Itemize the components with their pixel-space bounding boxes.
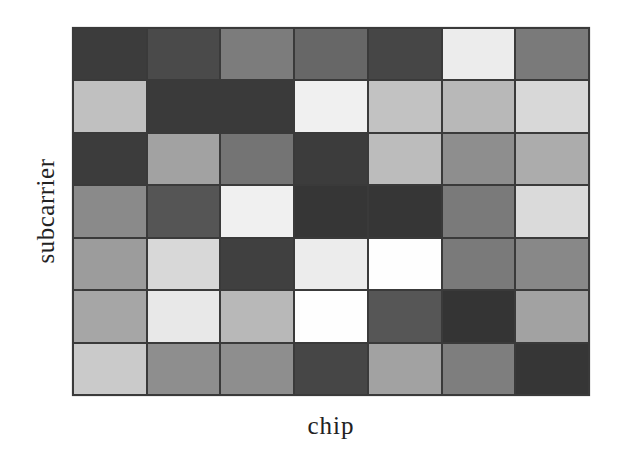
- heatmap-cell: [221, 134, 293, 184]
- heatmap-grid: [72, 27, 590, 396]
- heatmap-cell: [74, 344, 146, 394]
- heatmap-cell: [295, 134, 367, 184]
- heatmap-cell: [221, 186, 293, 236]
- heatmap-cell: [74, 81, 146, 131]
- heatmap-cell: [148, 344, 220, 394]
- heatmap-cell: [443, 291, 515, 341]
- heatmap-cell: [295, 344, 367, 394]
- heatmap-cell: [443, 29, 515, 79]
- heatmap-cell: [443, 134, 515, 184]
- heatmap-cell: [516, 81, 588, 131]
- heatmap-cell: [516, 29, 588, 79]
- heatmap-cell: [443, 81, 515, 131]
- heatmap-cell: [443, 344, 515, 394]
- heatmap-cell: [148, 134, 220, 184]
- heatmap-cell: [369, 344, 441, 394]
- heatmap-cell: [148, 81, 220, 131]
- heatmap-cell: [221, 29, 293, 79]
- heatmap-cell: [221, 81, 293, 131]
- heatmap-cell: [295, 186, 367, 236]
- heatmap-cell: [295, 291, 367, 341]
- heatmap-cell: [516, 186, 588, 236]
- heatmap-cell: [295, 29, 367, 79]
- heatmap-cell: [295, 81, 367, 131]
- heatmap-cell: [148, 291, 220, 341]
- heatmap-cell: [74, 134, 146, 184]
- heatmap-cell: [369, 81, 441, 131]
- heatmap-cell: [74, 239, 146, 289]
- heatmap-cell: [74, 186, 146, 236]
- heatmap-cell: [369, 134, 441, 184]
- heatmap-cell: [369, 29, 441, 79]
- x-axis-label: chip: [307, 412, 354, 440]
- heatmap-cell: [369, 239, 441, 289]
- heatmap-cell: [443, 239, 515, 289]
- heatmap-cell: [74, 29, 146, 79]
- heatmap-cell: [148, 29, 220, 79]
- heatmap-cell: [369, 291, 441, 341]
- y-axis-label: subcarrier: [32, 159, 60, 264]
- heatmap-cell: [516, 239, 588, 289]
- heatmap-cell: [295, 239, 367, 289]
- heatmap-cell: [369, 186, 441, 236]
- heatmap-cell: [148, 239, 220, 289]
- heatmap-cell: [221, 239, 293, 289]
- heatmap-cell: [516, 291, 588, 341]
- heatmap-cell: [443, 186, 515, 236]
- heatmap-cell: [516, 344, 588, 394]
- heatmap-figure: subcarrier chip: [0, 0, 622, 458]
- heatmap-cell: [74, 291, 146, 341]
- heatmap-cell: [221, 344, 293, 394]
- heatmap-cell: [221, 291, 293, 341]
- heatmap-cell: [148, 186, 220, 236]
- heatmap-cell: [516, 134, 588, 184]
